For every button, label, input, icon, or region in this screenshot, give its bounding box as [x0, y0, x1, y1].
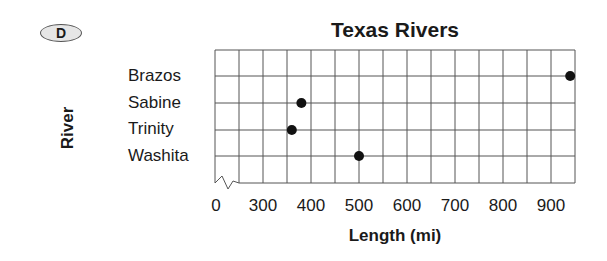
x-tick: 0: [211, 196, 220, 216]
x-tick: 700: [441, 196, 469, 216]
x-tick: 400: [297, 196, 325, 216]
data-point-brazos: [565, 71, 575, 81]
data-point-sabine: [296, 98, 306, 108]
x-axis-label: Length (mi): [349, 226, 442, 246]
axis-break-icon: [215, 176, 239, 189]
data-point-trinity: [287, 125, 297, 135]
x-tick: 800: [489, 196, 517, 216]
x-tick: 900: [537, 196, 565, 216]
x-tick: 300: [249, 196, 277, 216]
x-tick: 500: [345, 196, 373, 216]
x-tick: 600: [393, 196, 421, 216]
chart-plot-area: [0, 0, 607, 261]
data-point-washita: [354, 151, 364, 161]
grid: [215, 50, 575, 189]
